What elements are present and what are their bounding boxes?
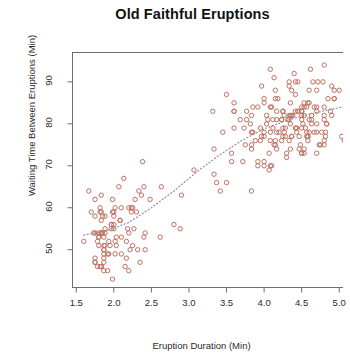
data-point	[211, 109, 215, 113]
data-point	[232, 109, 236, 113]
data-point	[107, 239, 111, 243]
data-point	[288, 147, 292, 151]
data-point	[274, 109, 278, 113]
data-point	[93, 197, 97, 201]
data-point	[148, 197, 152, 201]
data-point	[122, 176, 126, 180]
y-tick-label: 90	[42, 67, 53, 93]
data-point	[232, 101, 236, 105]
data-point	[259, 84, 263, 88]
x-tick-label: 1.5	[63, 297, 89, 308]
data-point	[268, 138, 272, 142]
x-tick-label: 4.5	[289, 297, 315, 308]
data-point	[110, 277, 114, 281]
data-point	[292, 71, 296, 75]
data-point	[192, 168, 196, 172]
data-point	[123, 264, 127, 268]
data-point	[99, 193, 103, 197]
data-point	[113, 206, 117, 210]
data-point	[332, 88, 336, 92]
data-point	[212, 147, 216, 151]
data-point	[133, 197, 137, 201]
data-point	[238, 117, 242, 121]
x-tick-label: 2.0	[101, 297, 127, 308]
data-point	[119, 206, 123, 210]
data-point	[256, 105, 260, 109]
data-point	[114, 235, 118, 239]
data-point	[179, 193, 183, 197]
y-tick-label: 50	[42, 235, 53, 261]
data-point	[293, 92, 297, 96]
data-point	[117, 185, 121, 189]
data-point	[158, 235, 162, 239]
data-point	[314, 88, 318, 92]
y-tick-label: 80	[42, 109, 53, 135]
data-point	[332, 96, 336, 100]
x-axis-ticks	[76, 288, 339, 293]
data-point	[127, 231, 131, 235]
data-point	[281, 109, 285, 113]
data-point	[324, 122, 328, 126]
data-point	[142, 185, 146, 189]
data-point	[82, 239, 86, 243]
data-point	[251, 105, 255, 109]
data-point	[232, 126, 236, 130]
data-point	[271, 126, 275, 130]
data-point	[330, 84, 334, 88]
data-point	[248, 122, 252, 126]
data-point	[316, 80, 320, 84]
data-point	[130, 243, 134, 247]
data-point	[128, 248, 132, 252]
data-point	[214, 180, 218, 184]
data-point	[321, 80, 325, 84]
data-point	[140, 159, 144, 163]
data-point	[93, 214, 97, 218]
data-point	[288, 101, 292, 105]
data-point	[279, 138, 283, 142]
data-point	[172, 222, 176, 226]
data-point	[326, 96, 330, 100]
data-point	[249, 113, 253, 117]
data-point	[322, 63, 326, 67]
data-point	[113, 252, 117, 256]
data-point	[273, 88, 277, 92]
data-point	[266, 117, 270, 121]
data-point	[135, 248, 139, 252]
data-point	[159, 185, 163, 189]
data-point	[337, 88, 341, 92]
data-point	[340, 134, 343, 138]
data-point	[272, 75, 276, 79]
x-tick-label: 2.5	[138, 297, 164, 308]
data-point	[311, 80, 315, 84]
data-point	[118, 218, 122, 222]
data-point	[322, 105, 326, 109]
y-tick-label: 60	[42, 193, 53, 219]
data-point	[342, 138, 343, 142]
data-point	[297, 134, 301, 138]
data-point	[249, 189, 253, 193]
data-point	[218, 189, 222, 193]
data-point	[244, 117, 248, 121]
data-point	[127, 269, 131, 273]
data-point	[119, 235, 123, 239]
data-point	[258, 126, 262, 130]
data-point	[221, 130, 225, 134]
data-point	[178, 227, 182, 231]
data-point	[268, 67, 272, 71]
data-point	[224, 180, 228, 184]
data-point	[244, 109, 248, 113]
data-point	[289, 88, 293, 92]
data-point	[132, 227, 136, 231]
data-point	[138, 260, 142, 264]
data-points	[82, 55, 343, 282]
data-point	[241, 159, 245, 163]
data-point	[229, 151, 233, 155]
data-point	[268, 130, 272, 134]
data-point	[119, 252, 123, 256]
data-point	[242, 126, 246, 130]
data-point	[243, 143, 247, 147]
data-point	[212, 172, 216, 176]
data-point	[224, 92, 228, 96]
